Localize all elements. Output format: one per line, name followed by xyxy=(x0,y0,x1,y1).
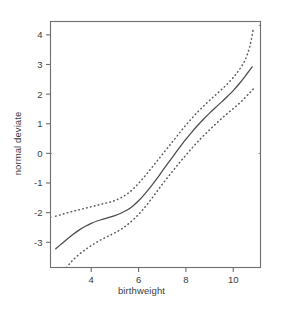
series-upper-confidence-band xyxy=(56,28,254,216)
y-tick-label--1: -1 xyxy=(34,177,42,188)
x-tick-label-6: 6 xyxy=(136,274,141,285)
x-tick-label-4: 4 xyxy=(89,274,94,285)
x-axis-title: birthweight xyxy=(0,285,283,296)
x-tick-label-10: 10 xyxy=(228,274,239,285)
y-tick-label-0: 0 xyxy=(37,148,42,159)
chart-container: 4681043210-1-2-3 birthweight normal devi… xyxy=(0,0,283,312)
y-tick-label--3: -3 xyxy=(34,237,42,248)
y-tick-label-3: 3 xyxy=(37,59,42,70)
y-tick-label-2: 2 xyxy=(37,89,42,100)
stray-point-1 xyxy=(50,153,51,154)
stray-point-3 xyxy=(259,153,260,154)
y-axis-title: normal deviate xyxy=(12,79,23,209)
stray-point-2 xyxy=(259,25,260,26)
series-lower-confidence-band xyxy=(66,89,253,268)
series-fitted-normal-deviate xyxy=(56,67,253,249)
plot-frame xyxy=(51,22,261,268)
plot-canvas: 4681043210-1-2-3 xyxy=(0,0,283,312)
y-tick-label-4: 4 xyxy=(37,29,42,40)
y-tick-label--2: -2 xyxy=(34,207,42,218)
y-tick-label-1: 1 xyxy=(37,118,42,129)
x-tick-label-8: 8 xyxy=(183,274,188,285)
stray-point-0 xyxy=(50,216,51,217)
